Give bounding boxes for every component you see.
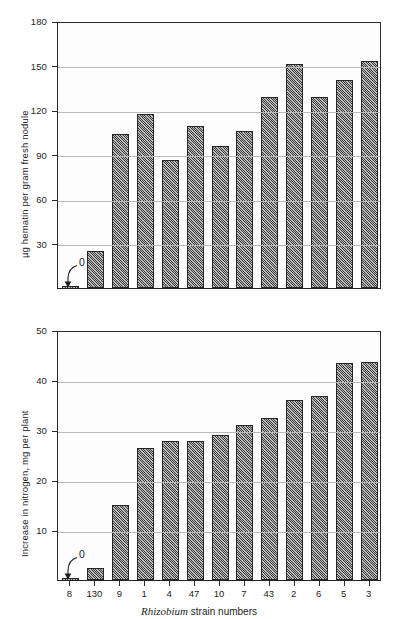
gridline xyxy=(58,201,380,202)
y-axis-tick-label: 30 xyxy=(13,425,47,436)
bar xyxy=(261,418,278,581)
x-axis-tick xyxy=(269,581,270,586)
bar xyxy=(87,251,104,288)
x-axis-title: Rhizobium strain numbers xyxy=(0,605,398,617)
x-axis-tick xyxy=(194,581,195,586)
x-axis-tick xyxy=(69,581,70,586)
x-axis-tick xyxy=(169,581,170,586)
x-axis-tick xyxy=(94,581,95,586)
bar xyxy=(62,286,79,288)
bar xyxy=(162,441,179,580)
bar xyxy=(112,505,129,580)
figure-two-panel-bar-charts: µg hematin per gram fresh nodule 3060901… xyxy=(0,0,398,619)
y-axis-tick-label: 50 xyxy=(13,325,47,336)
x-axis-tick xyxy=(344,581,345,586)
bar xyxy=(286,64,303,288)
y-axis-tick xyxy=(52,331,57,332)
y-axis-title-hematin: µg hematin per gram fresh nodule xyxy=(19,110,30,258)
bar xyxy=(162,160,179,288)
bar xyxy=(336,363,353,581)
x-axis-tick xyxy=(369,581,370,586)
x-axis-tick xyxy=(244,581,245,586)
y-axis-tick-label: 20 xyxy=(13,475,47,486)
bar xyxy=(87,568,104,581)
y-axis-tick-label: 90 xyxy=(13,150,47,161)
x-axis-tick xyxy=(319,581,320,586)
bar xyxy=(212,435,229,580)
gridline xyxy=(58,112,380,113)
bar xyxy=(311,396,328,580)
y-axis-tick xyxy=(52,111,57,112)
gridline xyxy=(58,67,380,68)
y-axis-tick xyxy=(52,155,57,156)
y-axis-tick-label: 30 xyxy=(13,239,47,250)
bar xyxy=(361,362,378,581)
x-axis-title-rest: strain numbers xyxy=(188,606,257,617)
y-axis-tick xyxy=(52,22,57,23)
plot-area-hematin xyxy=(57,22,381,289)
y-axis-tick xyxy=(52,431,57,432)
bar xyxy=(311,97,328,288)
x-axis-tick xyxy=(219,581,220,586)
bar xyxy=(361,61,378,288)
y-axis-tick xyxy=(52,531,57,532)
y-axis-tick-label: 40 xyxy=(13,375,47,386)
bar xyxy=(62,578,79,580)
x-axis-tick xyxy=(144,581,145,586)
gridline xyxy=(58,245,380,246)
y-axis-tick xyxy=(52,244,57,245)
gridline xyxy=(58,532,380,533)
x-axis-tick xyxy=(119,581,120,586)
x-axis-title-genus: Rhizobium xyxy=(141,605,188,617)
plot-area-nitrogen xyxy=(57,331,381,581)
chart-panel-nitrogen: Increase in nitrogen, mg per plant 10203… xyxy=(0,305,398,619)
y-axis-tick-label: 120 xyxy=(13,105,47,116)
y-axis-tick-label: 150 xyxy=(13,61,47,72)
y-axis-tick-label: 10 xyxy=(13,525,47,536)
gridline xyxy=(58,482,380,483)
x-axis-tick-label: 3 xyxy=(353,588,385,599)
bar xyxy=(187,126,204,288)
gridline xyxy=(58,156,380,157)
bar xyxy=(187,441,204,580)
bar-series-nitrogen xyxy=(58,332,380,580)
chart-panel-hematin: µg hematin per gram fresh nodule 3060901… xyxy=(0,0,398,305)
bar xyxy=(137,448,154,581)
bar xyxy=(286,400,303,581)
y-axis-tick xyxy=(52,66,57,67)
gridline xyxy=(58,432,380,433)
x-axis-tick xyxy=(294,581,295,586)
y-axis-tick xyxy=(52,200,57,201)
y-axis-tick xyxy=(52,381,57,382)
gridline xyxy=(58,382,380,383)
bar xyxy=(261,97,278,288)
bar xyxy=(212,146,229,288)
y-axis-tick xyxy=(52,481,57,482)
bar xyxy=(236,425,253,580)
y-axis-tick-label: 60 xyxy=(13,194,47,205)
bar xyxy=(236,131,253,288)
y-axis-tick-label: 180 xyxy=(13,16,47,27)
